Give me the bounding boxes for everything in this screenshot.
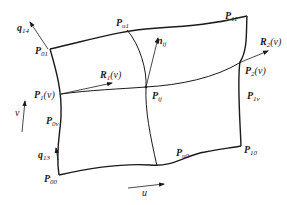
left-boundary-curve	[50, 49, 61, 175]
label-pu0: Pu0	[176, 148, 189, 160]
label-p0v: P0v	[46, 116, 59, 128]
label-p01: P01	[35, 46, 48, 58]
label-r2v: R2(v)	[260, 37, 281, 49]
surface-patch-diagram: q14 P01 Pu1 P11 nij R2(v) R1(v) P2(v) P1…	[0, 0, 287, 205]
label-p00: P00	[44, 174, 57, 186]
label-nij: nij	[157, 36, 166, 48]
pij-point	[145, 86, 148, 89]
right-boundary-curve	[239, 16, 247, 146]
v-axis-arrow	[22, 101, 25, 132]
label-v-axis: v	[15, 108, 19, 118]
label-u-axis: u	[142, 188, 147, 198]
label-p11: P11	[225, 11, 238, 23]
label-p1v: P1(v)	[34, 90, 55, 102]
r2-tangent-vector	[241, 51, 268, 62]
label-pij: Pij	[152, 91, 162, 103]
bottom-boundary-curve	[59, 146, 241, 175]
label-p1v-boundary: P1v	[247, 91, 260, 103]
label-p10: P10	[244, 145, 257, 157]
label-q14: q14	[17, 23, 29, 35]
label-p2v: P2(v)	[245, 66, 266, 78]
label-r1v: R1(v)	[100, 70, 121, 82]
r1-tangent-vector	[61, 83, 112, 94]
label-pu1: Pu1	[116, 18, 129, 30]
top-boundary-curve	[50, 16, 247, 49]
label-q13: q13	[38, 150, 50, 162]
